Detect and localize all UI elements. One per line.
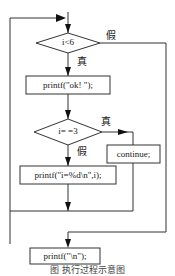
decision-1-text: i<6 — [48, 37, 88, 48]
label-cond1-true: 真 — [77, 56, 87, 68]
label-cond2-true: 真 — [101, 116, 111, 128]
print-ok-text: printf("ok! "); — [26, 80, 110, 91]
print-newline-text: printf("\n"); — [30, 251, 100, 262]
print-i-text: printf("i=%d\n",i); — [20, 170, 116, 181]
continue-text: continue; — [107, 149, 160, 160]
label-cond1-false: 假 — [106, 30, 116, 42]
figure-caption: 图 执行过程示意图 — [0, 263, 175, 276]
decision-2-text: i= =3 — [44, 126, 92, 137]
label-cond2-false: 假 — [77, 146, 87, 158]
